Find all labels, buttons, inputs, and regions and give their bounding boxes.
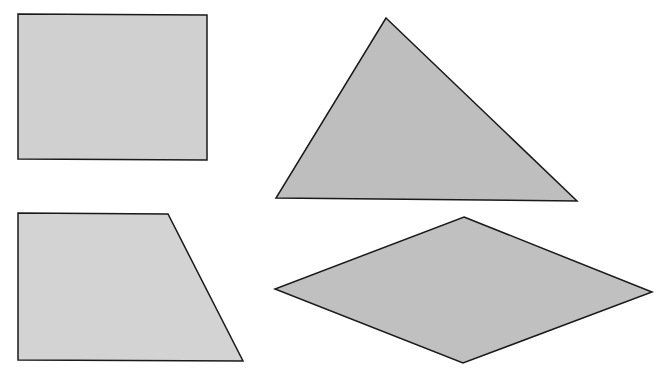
shapes-canvas xyxy=(0,0,665,376)
rectangle-shape xyxy=(18,14,207,160)
trapezoid-shape xyxy=(18,213,243,361)
triangle-shape xyxy=(276,18,577,201)
rhombus-shape xyxy=(275,217,652,363)
